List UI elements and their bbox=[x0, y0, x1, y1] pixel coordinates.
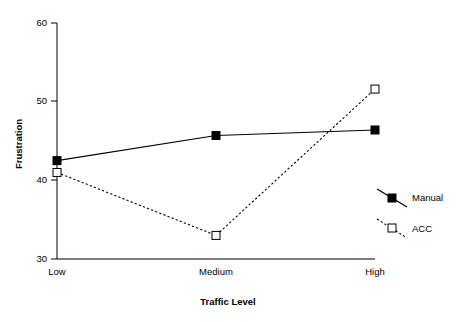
x-axis: Low Medium High bbox=[48, 259, 384, 277]
legend-acc-label: ACC bbox=[412, 223, 432, 234]
series-acc-point-high bbox=[371, 85, 379, 93]
legend-item-acc: ACC bbox=[377, 219, 432, 238]
series-manual bbox=[53, 126, 379, 165]
legend-acc-marker bbox=[388, 224, 396, 232]
series-acc bbox=[53, 85, 379, 239]
legend-item-manual: Manual bbox=[377, 189, 443, 207]
legend-manual-label: Manual bbox=[412, 192, 443, 203]
frustration-vs-traffic-level-line-chart: 60 50 40 30 Low Medium High Frustration … bbox=[0, 0, 456, 322]
series-manual-point-high bbox=[371, 126, 379, 134]
x-tick-label-low: Low bbox=[48, 266, 66, 277]
y-tick-label-30: 30 bbox=[36, 253, 47, 264]
x-tick-label-high: High bbox=[365, 266, 385, 277]
y-axis: 60 50 40 30 bbox=[36, 17, 57, 264]
series-manual-point-medium bbox=[212, 131, 220, 139]
legend-manual-marker bbox=[388, 194, 396, 202]
y-axis-title: Frustration bbox=[13, 119, 24, 169]
x-tick-label-medium: Medium bbox=[199, 266, 233, 277]
y-tick-label-40: 40 bbox=[36, 174, 47, 185]
series-acc-line bbox=[57, 89, 375, 235]
series-acc-point-medium bbox=[212, 231, 220, 239]
chart-figure: 60 50 40 30 Low Medium High Frustration … bbox=[0, 0, 456, 322]
x-axis-title: Traffic Level bbox=[200, 296, 255, 307]
series-manual-point-low bbox=[53, 157, 61, 165]
chart-legend: Manual ACC bbox=[377, 189, 443, 238]
y-tick-label-50: 50 bbox=[36, 95, 47, 106]
y-tick-label-60: 60 bbox=[36, 17, 47, 28]
series-acc-point-low bbox=[53, 168, 61, 176]
